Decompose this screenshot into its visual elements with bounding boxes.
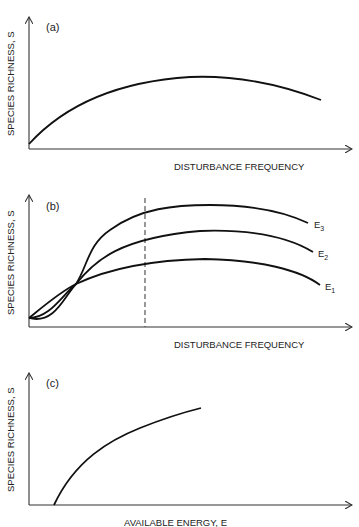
curve-c xyxy=(54,408,201,505)
panel-a: (a) SPECIES RICHNESS, S DISTURBANCE FREQ… xyxy=(5,17,352,172)
curve-e3 xyxy=(29,205,308,319)
x-axis-label: DISTURBANCE FREQUENCY xyxy=(174,161,305,172)
y-axis-label: SPECIES RICHNESS, S xyxy=(5,387,16,492)
panel-tag: (b) xyxy=(46,200,59,212)
x-axis-label: DISTURBANCE FREQUENCY xyxy=(174,339,305,350)
curve-a xyxy=(29,77,321,144)
legend-e3: E3 xyxy=(314,219,324,232)
legend-e2: E2 xyxy=(318,248,328,261)
y-axis-label: SPECIES RICHNESS, S xyxy=(5,31,16,136)
y-axis-label: SPECIES RICHNESS, S xyxy=(5,210,16,315)
panel-c: (c) SPECIES RICHNESS, S AVAILABLE ENERGY… xyxy=(5,373,352,527)
panel-tag: (c) xyxy=(46,377,59,389)
x-axis-label: AVAILABLE ENERGY, E xyxy=(124,517,227,527)
panel-tag: (a) xyxy=(46,21,59,33)
legend-e1: E1 xyxy=(325,281,335,294)
panel-b: (b) SPECIES RICHNESS, S DISTURBANCE FREQ… xyxy=(5,195,352,350)
figure: (a) SPECIES RICHNESS, S DISTURBANCE FREQ… xyxy=(0,0,359,527)
curve-e2 xyxy=(29,231,313,318)
